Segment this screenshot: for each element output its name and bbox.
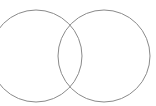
- left-circle: [0, 10, 82, 102]
- venn-diagram: [0, 0, 156, 106]
- right-circle: [58, 10, 150, 102]
